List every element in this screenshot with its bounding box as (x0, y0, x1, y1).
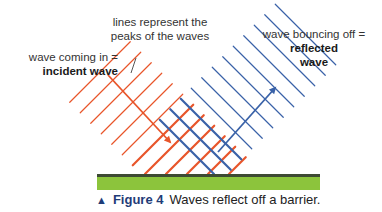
wave-peaks-label: lines represent the peaks of the waves (95, 15, 225, 43)
peaks-label-line2: peaks of the waves (111, 30, 209, 42)
wave-peak-line (187, 136, 225, 174)
reflected-label-term2: wave (300, 56, 328, 68)
figure-number: Figure 4 (113, 192, 164, 207)
wave-peak-line (160, 120, 214, 174)
reflected-label-line1: wave bouncing off = (263, 28, 365, 40)
wave-peak-line (229, 157, 246, 174)
barrier (97, 176, 320, 190)
peaks-label-line1: lines represent the (113, 16, 208, 28)
reflected-direction-arrow-icon (218, 87, 276, 152)
incident-wave-label: wave coming in = incident wave (6, 50, 118, 78)
reflected-wave-label: wave bouncing off = reflected wave (252, 27, 376, 69)
caption-text: Waves reflect off a barrier. (169, 192, 320, 207)
incident-label-line1: wave coming in = (29, 51, 118, 63)
barrier-surface-line (97, 174, 320, 177)
figure-caption: ▲Figure 4Waves reflect off a barrier. (96, 192, 320, 207)
caption-triangle-icon: ▲ (96, 194, 107, 206)
incident-direction-arrow-icon (108, 75, 171, 143)
reflected-label-term1: reflected (290, 42, 338, 54)
incident-label-term: incident wave (43, 65, 118, 77)
